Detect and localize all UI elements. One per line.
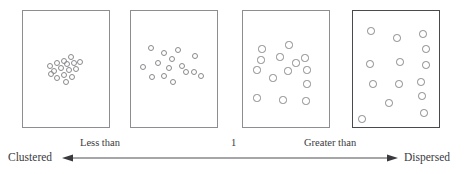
point-marker xyxy=(276,53,283,60)
point-marker xyxy=(417,78,425,86)
axis-label-greater-than: Greater than xyxy=(304,138,356,149)
point-marker xyxy=(258,45,265,52)
point-marker xyxy=(301,54,308,61)
point-marker xyxy=(367,27,375,35)
point-marker xyxy=(279,96,286,103)
axis-label-less-than: Less than xyxy=(80,138,120,149)
point-marker xyxy=(285,41,292,48)
point-marker xyxy=(369,80,377,88)
point-marker xyxy=(253,66,260,73)
point-marker xyxy=(395,80,403,88)
point-marker xyxy=(422,61,430,69)
point-marker xyxy=(257,56,264,63)
axis-label-clustered: Clustered xyxy=(8,152,52,164)
point-marker xyxy=(253,94,260,101)
point-marker xyxy=(418,92,426,100)
point-marker xyxy=(269,74,276,81)
point-marker xyxy=(422,45,430,53)
point-marker xyxy=(396,58,404,66)
point-marker xyxy=(292,59,299,66)
point-marker xyxy=(302,97,309,104)
point-marker xyxy=(393,34,401,42)
point-marker xyxy=(303,66,310,73)
point-marker xyxy=(420,109,428,117)
point-marker xyxy=(284,67,291,74)
axis-label-one: 1 xyxy=(231,138,236,149)
right-arrowhead-icon xyxy=(387,155,398,162)
point-marker xyxy=(358,115,366,123)
axis-label-dispersed: Dispersed xyxy=(404,152,450,164)
point-marker xyxy=(385,99,393,107)
spatial-pattern-figure: Clustered Less than 1 Greater than Dispe… xyxy=(0,0,467,174)
point-marker xyxy=(303,80,310,87)
point-marker xyxy=(419,30,427,38)
left-arrowhead-icon xyxy=(62,155,73,162)
point-marker xyxy=(366,60,374,68)
